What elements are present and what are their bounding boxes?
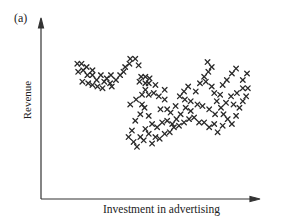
data-point-x-marker xyxy=(178,94,183,99)
data-point-x-marker xyxy=(128,102,133,107)
data-point-x-marker xyxy=(155,125,160,130)
data-point-x-marker xyxy=(225,78,230,83)
data-point-x-marker xyxy=(126,135,131,140)
data-point-x-marker xyxy=(136,63,141,68)
data-point-x-marker xyxy=(188,99,193,104)
data-point-x-marker xyxy=(187,117,192,122)
data-point-x-marker xyxy=(221,112,226,117)
data-point-x-marker xyxy=(220,83,225,88)
data-point-x-marker xyxy=(85,73,90,78)
x-axis-arrowhead-icon xyxy=(250,197,260,202)
data-point-x-marker xyxy=(235,91,240,96)
data-point-x-marker xyxy=(150,122,155,127)
data-point-x-marker xyxy=(218,92,223,97)
data-point-x-marker xyxy=(231,102,236,107)
data-point-x-marker xyxy=(162,97,167,102)
data-point-x-marker xyxy=(215,130,220,135)
data-point-x-marker xyxy=(241,99,246,104)
data-point-x-marker xyxy=(193,89,198,94)
data-point-x-marker xyxy=(160,120,165,125)
data-point-x-marker xyxy=(205,60,210,65)
axes xyxy=(39,18,261,202)
data-point-x-marker xyxy=(237,105,242,110)
data-point-x-marker xyxy=(241,86,246,91)
data-point-x-marker xyxy=(90,83,95,88)
data-point-x-marker xyxy=(151,91,156,96)
data-point-x-marker xyxy=(225,117,230,122)
data-point-x-marker xyxy=(214,99,219,104)
data-point-x-marker xyxy=(224,101,229,106)
data-point-x-marker xyxy=(133,57,138,62)
data-point-x-marker xyxy=(204,79,209,84)
data-point-x-marker xyxy=(114,78,119,83)
data-point-x-marker xyxy=(182,120,187,125)
data-point-x-marker xyxy=(246,86,251,91)
data-point-x-marker xyxy=(212,91,217,96)
data-point-x-marker xyxy=(153,135,158,140)
data-point-x-marker xyxy=(135,145,140,150)
data-point-x-marker xyxy=(174,117,179,122)
data-point-x-marker xyxy=(183,105,188,110)
data-point-x-marker xyxy=(141,138,146,143)
data-point-x-marker xyxy=(143,74,148,79)
data-point-x-marker xyxy=(162,87,167,92)
data-point-x-marker xyxy=(79,61,84,66)
data-point-x-marker xyxy=(209,84,214,89)
y-axis-arrowhead-icon xyxy=(39,18,44,28)
data-point-x-marker xyxy=(139,74,144,79)
data-point-x-marker xyxy=(80,79,85,84)
data-point-x-marker xyxy=(195,102,200,107)
data-point-x-marker xyxy=(209,65,214,70)
data-point-x-marker xyxy=(76,70,81,75)
data-point-x-marker xyxy=(138,112,143,117)
data-point-x-marker xyxy=(206,70,211,75)
data-point-x-marker xyxy=(178,112,183,117)
data-point-x-marker xyxy=(234,114,239,119)
data-point-x-marker xyxy=(140,92,145,97)
data-point-x-marker xyxy=(198,81,203,86)
data-point-x-marker xyxy=(109,73,114,78)
data-point-x-marker xyxy=(100,86,105,91)
data-point-x-marker xyxy=(244,94,249,99)
data-point-x-marker xyxy=(158,107,163,112)
data-point-x-marker xyxy=(143,127,148,132)
data-point-x-marker xyxy=(130,128,135,133)
data-point-x-marker xyxy=(90,68,95,73)
data-point-x-marker xyxy=(177,123,182,128)
data-point-x-marker xyxy=(150,141,155,146)
data-point-x-marker xyxy=(146,92,151,97)
data-point-x-marker xyxy=(234,66,239,71)
data-point-x-marker xyxy=(173,104,178,109)
data-point-x-marker xyxy=(134,97,139,102)
data-point-x-marker xyxy=(157,94,162,99)
scatter-plot xyxy=(0,0,283,224)
data-point-x-marker xyxy=(90,73,95,78)
data-point-x-marker xyxy=(137,79,142,84)
data-point-x-marker xyxy=(95,84,100,89)
data-point-x-marker xyxy=(207,107,212,112)
data-point-x-marker xyxy=(147,76,152,81)
data-point-x-marker xyxy=(220,123,225,128)
data-point-x-marker xyxy=(229,94,234,99)
data-point-x-marker xyxy=(123,65,128,70)
data-point-x-marker xyxy=(182,89,187,94)
data-points xyxy=(75,57,250,150)
data-point-x-marker xyxy=(146,132,151,137)
data-point-x-marker xyxy=(207,125,212,130)
data-point-x-marker xyxy=(146,81,151,86)
data-point-x-marker xyxy=(197,120,202,125)
data-point-x-marker xyxy=(202,74,207,79)
data-point-x-marker xyxy=(213,112,218,117)
data-point-x-marker xyxy=(127,61,132,66)
data-point-x-marker xyxy=(121,70,126,75)
data-point-x-marker xyxy=(245,71,250,76)
data-point-x-marker xyxy=(162,132,167,137)
data-point-x-marker xyxy=(192,115,197,120)
data-point-x-marker xyxy=(94,78,99,83)
data-point-x-marker xyxy=(165,118,170,123)
data-point-x-marker xyxy=(188,109,193,114)
data-point-x-marker xyxy=(167,130,172,135)
data-point-x-marker xyxy=(86,81,91,86)
data-point-x-marker xyxy=(230,122,235,127)
data-point-x-marker xyxy=(146,114,151,119)
